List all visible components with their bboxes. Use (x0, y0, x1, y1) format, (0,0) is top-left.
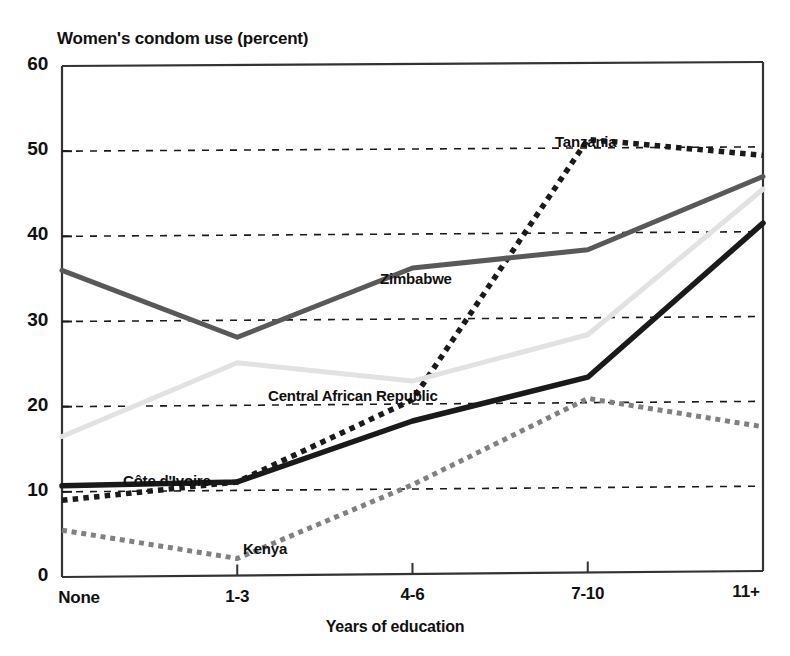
y-tick-label: 60 (4, 53, 48, 75)
gridlines-group (62, 147, 763, 492)
x-tick-label: 1-3 (192, 587, 282, 607)
x-tick-label: 4-6 (368, 585, 458, 605)
series-line-tanzania (62, 139, 763, 500)
axis-top (62, 62, 763, 66)
y-tick-label: 10 (4, 479, 48, 501)
x-tick-label: 7-10 (543, 584, 633, 604)
y-tick-marks (62, 151, 72, 492)
series-label-zimbabwe: Zimbabwe (380, 270, 452, 287)
series-label-tanzania: Tanzania (555, 133, 616, 150)
chart-container: Women's condom use (percent) Years of ed… (0, 0, 790, 656)
series-label-kenya: Kenya (243, 540, 287, 557)
y-tick-label: 50 (4, 138, 48, 160)
y-tick-label: 30 (4, 309, 48, 331)
chart-title: Women's condom use (percent) (57, 29, 308, 49)
x-axis-label: Years of education (0, 618, 790, 636)
y-tick-label: 0 (4, 564, 48, 586)
data-series-group (62, 139, 763, 558)
y-tick-label: 20 (4, 394, 48, 416)
series-label-central-african-republic: Central African Republic (268, 387, 438, 404)
x-tick-label: None (34, 588, 124, 608)
chart-plot-area (0, 0, 790, 656)
series-label-c-te-d-ivoire: Côte d'Ivoire (123, 472, 211, 489)
series-line-c-te-d-ivoire (62, 223, 763, 486)
x-tick-label: 11+ (701, 582, 790, 602)
y-tick-label: 40 (4, 223, 48, 245)
gridline (62, 232, 763, 237)
